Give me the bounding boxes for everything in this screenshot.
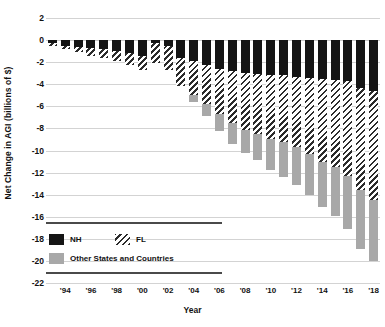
bar-segment-fl <box>279 75 288 141</box>
bar-2009 <box>253 18 262 283</box>
bar-segment-fl <box>61 46 70 49</box>
bar-segment-fl <box>318 79 327 162</box>
bar-segment-nh <box>279 40 288 75</box>
bar-2017 <box>356 18 365 283</box>
bar-segment-other <box>241 130 250 153</box>
legend-item-fl: FL <box>115 234 146 245</box>
x-axis-tick-label: '14 <box>317 286 328 295</box>
legend-label-fl: FL <box>136 235 146 244</box>
bar-segment-nh <box>202 40 211 65</box>
bar-segment-nh <box>189 40 198 61</box>
bar-segment-nh <box>138 40 147 55</box>
bar-segment-fl <box>176 58 185 87</box>
bar-segment-fl <box>125 53 134 65</box>
bar-segment-fl <box>292 77 301 148</box>
bar-segment-other <box>279 142 288 177</box>
x-axis-tick-label: '18 <box>368 286 379 295</box>
y-axis-tick-label: -12 <box>4 168 44 178</box>
bar-segment-fl <box>343 81 352 176</box>
bar-segment-fl <box>74 47 83 53</box>
bar-segment-nh <box>331 40 340 80</box>
bar-segment-other <box>253 134 262 161</box>
bar-segment-nh <box>343 40 352 81</box>
y-axis-tick-label: -10 <box>4 146 44 156</box>
bar-segment-fl <box>241 73 250 129</box>
x-axis-tick-label: '96 <box>86 286 97 295</box>
y-axis-tick-label: -4 <box>4 79 44 89</box>
x-axis-tick-label: '98 <box>111 286 122 295</box>
gridline <box>46 283 380 284</box>
y-axis-tick-label: 0 <box>4 35 44 45</box>
bar-segment-nh <box>369 40 378 91</box>
y-axis-tick-label: -14 <box>4 190 44 200</box>
bar-2010 <box>266 18 275 283</box>
bar-segment-fl <box>215 69 224 114</box>
bar-segment-nh <box>125 40 134 53</box>
bar-2015 <box>331 18 340 283</box>
x-axis-tick-label: '04 <box>188 286 199 295</box>
legend-rule-top <box>46 222 222 224</box>
bar-segment-nh <box>86 40 95 48</box>
chart-container: Net Change in AGI (billions of $) 20-2-4… <box>0 0 385 327</box>
y-axis-tick-label: -18 <box>4 234 44 244</box>
x-axis-tick-label: '08 <box>240 286 251 295</box>
bar-segment-fl <box>228 71 237 123</box>
bar-segment-other <box>343 176 352 229</box>
bar-segment-nh <box>215 40 224 69</box>
x-axis-tick-label: '00 <box>137 286 148 295</box>
bar-segment-fl <box>138 56 147 70</box>
bar-segment-other <box>356 190 365 249</box>
bar-segment-other <box>189 95 198 102</box>
legend-rule-bottom <box>46 272 222 274</box>
bar-segment-other <box>318 162 327 207</box>
bar-2013 <box>305 18 314 283</box>
legend-row-primary: NH FL <box>49 234 82 245</box>
bar-segment-nh <box>112 40 121 51</box>
bar-2007 <box>228 18 237 283</box>
x-axis-title-text: Year <box>184 305 202 315</box>
nh-swatch <box>49 234 64 245</box>
y-axis-tick-label: -8 <box>4 123 44 133</box>
bar-segment-nh <box>228 40 237 71</box>
legend-label-other: Other States and Countries <box>70 254 174 263</box>
other-swatch <box>49 253 64 264</box>
bar-segment-fl <box>99 49 108 58</box>
x-axis-ticks: '94'96'98'00'02'04'06'08'10'12'14'16'18 <box>46 286 380 300</box>
x-axis-title: Year <box>0 305 385 315</box>
bar-segment-nh <box>74 40 83 47</box>
bar-segment-nh <box>99 40 108 49</box>
bar-segment-fl <box>356 88 365 191</box>
bar-segment-fl <box>189 61 198 95</box>
y-axis-tick-label: -6 <box>4 101 44 111</box>
bar-segment-other <box>369 200 378 261</box>
bar-segment-nh <box>356 40 365 87</box>
bar-segment-fl <box>253 74 262 134</box>
bar-segment-other <box>305 154 314 195</box>
bar-segment-other <box>266 139 275 170</box>
y-axis-ticks: 20-2-4-6-8-10-12-14-16-18-20-22 <box>0 18 44 283</box>
bar-2016 <box>343 18 352 283</box>
y-axis-tick-label: -2 <box>4 57 44 67</box>
bar-segment-nh <box>176 40 185 58</box>
bar-segment-nh <box>253 40 262 74</box>
bar-segment-fl <box>331 80 340 167</box>
x-axis-tick-label: '02 <box>163 286 174 295</box>
fl-swatch <box>115 234 130 245</box>
bar-segment-nh <box>318 40 327 79</box>
bar-segment-fl <box>266 75 275 139</box>
bar-segment-fl <box>305 78 314 154</box>
bar-segment-other <box>215 114 224 131</box>
bar-segment-other <box>228 123 237 144</box>
bar-segment-fl <box>48 43 57 45</box>
bar-2011 <box>279 18 288 283</box>
bar-segment-other <box>202 104 211 116</box>
bar-segment-other <box>331 167 340 216</box>
bar-segment-nh <box>266 40 275 75</box>
y-axis-tick-label: -16 <box>4 212 44 222</box>
bar-segment-fl <box>369 91 378 200</box>
y-axis-tick-label: 2 <box>4 13 44 23</box>
bar-segment-fl <box>151 43 160 63</box>
bar-2014 <box>318 18 327 283</box>
bar-2012 <box>292 18 301 283</box>
legend-label-nh: NH <box>70 235 82 244</box>
